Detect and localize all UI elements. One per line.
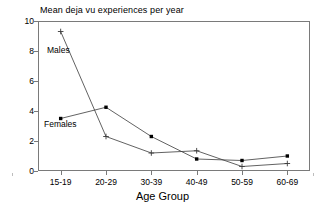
x-tick-label: 60-69 xyxy=(276,177,298,187)
y-tick-label: 10 xyxy=(0,16,34,26)
y-tick-label: 4 xyxy=(0,106,34,116)
x-tick-mark xyxy=(106,171,107,175)
series-label-males: Males xyxy=(47,45,70,55)
x-axis-title: Age Group xyxy=(0,190,325,202)
x-tick-mark xyxy=(197,171,198,175)
x-tick-label: 30-39 xyxy=(140,177,162,187)
y-tick-mark xyxy=(34,51,38,52)
x-tick-mark xyxy=(61,171,62,175)
chart-title: Mean deja vu experiences per year xyxy=(40,5,184,15)
y-tick-mark xyxy=(34,141,38,142)
y-tick-mark xyxy=(34,171,38,172)
plot-area xyxy=(38,21,310,171)
y-tick-label: 2 xyxy=(0,136,34,146)
series-label-females: Females xyxy=(44,119,77,129)
y-tick-mark xyxy=(34,21,38,22)
x-tick-label: 20-29 xyxy=(95,177,117,187)
y-tick-mark xyxy=(34,81,38,82)
y-tick-mark xyxy=(34,111,38,112)
x-tick-label: 40-49 xyxy=(186,177,208,187)
x-tick-mark xyxy=(287,171,288,175)
chart-canvas: Mean deja vu experiences per year 108642… xyxy=(0,0,325,210)
axis-end-tick-left xyxy=(12,173,13,176)
x-tick-mark xyxy=(151,171,152,175)
x-tick-label: 50-59 xyxy=(231,177,253,187)
axis-end-tick-right xyxy=(313,173,314,176)
y-tick-label: 0 xyxy=(0,166,34,176)
y-tick-label: 8 xyxy=(0,46,34,56)
y-tick-label: 6 xyxy=(0,76,34,86)
x-tick-mark xyxy=(242,171,243,175)
x-tick-label: 15-19 xyxy=(50,177,72,187)
